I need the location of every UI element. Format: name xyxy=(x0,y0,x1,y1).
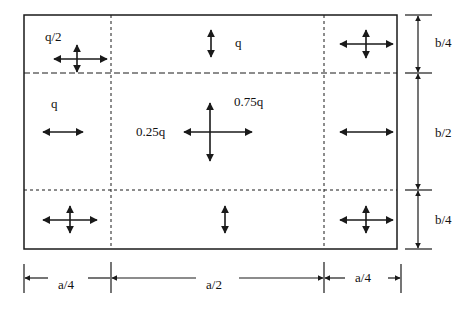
slab-diagram: q/2 q q 0.25q 0.75q b/4 b/2 b/4 a/4 a/2 … xyxy=(0,0,471,312)
cross-arrow-icon-bottom-left xyxy=(43,206,97,233)
dimension-label-a-right: a/4 xyxy=(355,270,371,285)
dimension-label-b-bottom: b/4 xyxy=(435,212,452,227)
label-middle-left: q xyxy=(51,96,58,111)
label-top-center: q xyxy=(235,35,242,50)
cross-arrow-icon-top-right xyxy=(340,30,393,58)
vertical-dimension xyxy=(405,15,432,249)
cross-arrow-icon-middle-center xyxy=(184,103,252,161)
cross-arrow-icon-top-left xyxy=(54,45,107,72)
dimension-label-a-middle: a/2 xyxy=(206,277,222,292)
label-middle-center-right: 0.75q xyxy=(234,94,264,109)
cross-arrow-icon-bottom-right xyxy=(340,206,393,233)
dimension-label-b-middle: b/2 xyxy=(435,125,452,140)
dimension-label-b-top: b/4 xyxy=(435,35,452,50)
label-top-left: q/2 xyxy=(45,29,62,44)
dimension-label-a-left: a/4 xyxy=(58,277,74,292)
label-middle-center-left: 0.25q xyxy=(136,124,166,139)
